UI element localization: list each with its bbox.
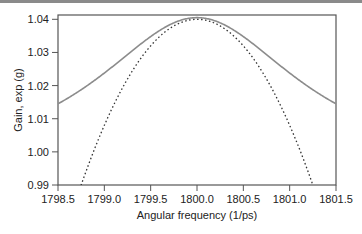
y-tick-label: 1.04 — [28, 13, 49, 25]
x-tick-label: 1801.0 — [273, 193, 307, 205]
x-tick-label: 1800.0 — [180, 193, 214, 205]
y-tick-label: 0.99 — [28, 179, 49, 191]
solid-gain-curve — [58, 18, 336, 104]
plot-frame — [58, 15, 336, 185]
y-tick-label: 1.02 — [28, 80, 49, 92]
gain-chart: 1798.51799.01799.51800.01800.51801.01801… — [0, 0, 362, 234]
x-tick-label: 1798.5 — [41, 193, 75, 205]
y-axis-ticks: 0.991.001.011.021.031.04 — [28, 13, 58, 191]
y-tick-label: 1.00 — [28, 146, 49, 158]
x-axis-label: Angular frequency (1/ps) — [137, 209, 257, 221]
y-axis-label: Gain, exp (g) — [12, 68, 24, 132]
y-tick-label: 1.03 — [28, 46, 49, 58]
x-tick-label: 1799.0 — [88, 193, 122, 205]
x-tick-label: 1801.5 — [319, 193, 353, 205]
y-tick-label: 1.01 — [28, 113, 49, 125]
x-tick-label: 1799.5 — [134, 193, 168, 205]
plot-border — [58, 15, 336, 185]
x-axis-ticks: 1798.51799.01799.51800.01800.51801.01801… — [41, 185, 353, 205]
x-tick-label: 1800.5 — [227, 193, 261, 205]
